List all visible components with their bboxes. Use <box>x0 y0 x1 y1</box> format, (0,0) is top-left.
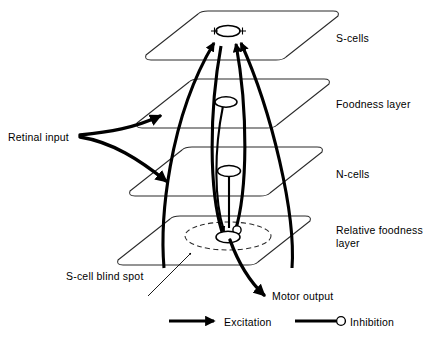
retinal-input-arrow-lower <box>80 137 166 181</box>
motor-output-label: Motor output <box>272 290 333 303</box>
diagram-canvas: S-cells Foodness layer N-cells Relative … <box>0 0 432 346</box>
legend-label-excitation: Excitation <box>224 316 272 329</box>
legend-label-inhibition: Inhibition <box>350 316 394 329</box>
layer-label-n-cells: N-cells <box>336 168 370 181</box>
layer-plane-s-cells <box>146 11 339 60</box>
layer-label-foodness: Foodness layer <box>336 98 411 111</box>
retinal-input-label: Retinal input <box>8 131 69 144</box>
blind-spot-leader <box>148 253 191 296</box>
connection-n-cell-to-bottom <box>229 176 241 234</box>
connection-outer-left <box>163 43 214 268</box>
legend-inhibition-marker <box>295 317 345 326</box>
layer-plane-relative-foodness <box>118 216 311 265</box>
plus-sign-right <box>239 28 246 35</box>
node-s-cell <box>211 25 246 36</box>
connection-inner-right <box>235 44 245 232</box>
connection-outer-right <box>241 43 292 268</box>
s-cell-blind-spot-label: S-cell blind spot <box>66 270 146 283</box>
node-relative-foodness-cell <box>216 231 240 243</box>
node-foodness-cell <box>215 97 237 107</box>
node-n-cell <box>218 166 241 177</box>
layer-label-relative-foodness: Relative foodness layer <box>336 224 428 249</box>
retinal-input-arrow-upper <box>80 116 160 135</box>
layer-label-s-cells: S-cells <box>336 32 369 45</box>
